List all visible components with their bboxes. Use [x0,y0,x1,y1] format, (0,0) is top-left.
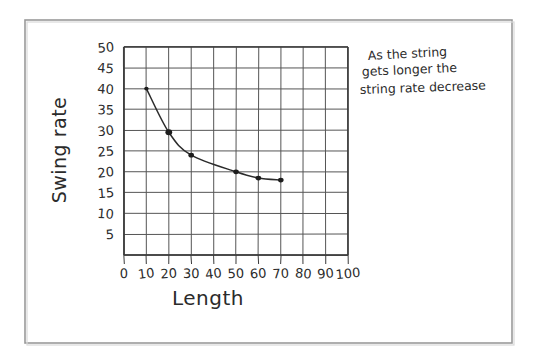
data-point [188,153,194,158]
x-tick-label: 10 [137,265,155,282]
x-axis-title: Length [172,286,244,310]
x-tick-label: 70 [272,266,289,282]
y-tick-label: 45 [97,60,115,76]
x-tick-label: 80 [294,265,312,281]
paper-background [0,0,535,363]
y-tick-label: 5 [105,227,114,243]
data-point [278,178,284,183]
x-tick-label: 20 [160,266,177,282]
worksheet-image: 5101520253035404550 01020304050607080901… [0,0,535,363]
x-tick-label: 60 [249,265,267,281]
y-tick-label: 35 [97,102,114,117]
y-tick-label: 15 [97,185,115,201]
data-point [233,169,239,174]
chart-canvas: 5101520253035404550 01020304050607080901… [0,0,535,363]
data-point [165,129,172,135]
y-tick-label: 20 [97,164,115,181]
x-tick-label: 0 [120,266,128,281]
x-tick-label: 30 [183,266,200,281]
x-tick-label: 100 [335,265,361,282]
y-axis-title: Swing rate [48,97,70,204]
x-tick-label: 90 [316,265,334,282]
y-tick-label: 30 [97,122,115,139]
data-point [256,176,262,181]
y-tick-label: 10 [97,206,115,222]
y-tick-label: 40 [97,81,115,97]
x-tick-label: 50 [227,266,244,282]
y-tick-label: 25 [97,143,115,160]
data-point [144,87,148,91]
x-tick-label: 40 [204,265,222,282]
y-tick-label: 50 [97,39,115,55]
